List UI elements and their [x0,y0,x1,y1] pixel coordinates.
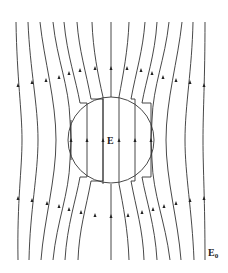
field-line [142,22,157,260]
field-diagram: E E0 [0,0,228,273]
field-line [185,22,194,260]
field-line [166,22,182,260]
field-line [64,22,87,260]
field-line [28,22,38,260]
field-line [40,22,56,260]
field-line [77,22,103,260]
field-line [92,22,103,97]
field-line [119,22,129,260]
outer-field-label: E0 [208,247,219,260]
inner-field-label: E [107,135,114,146]
field-line [131,22,145,260]
field-line [203,22,205,260]
field-line [16,22,22,260]
